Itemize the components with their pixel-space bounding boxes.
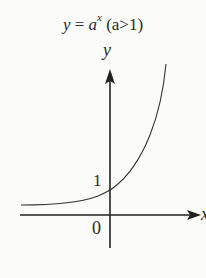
x-axis-label: x	[201, 204, 206, 225]
origin-label: 0	[92, 218, 101, 239]
y-intercept-label: 1	[93, 171, 102, 191]
y-axis-label: y	[103, 40, 111, 61]
